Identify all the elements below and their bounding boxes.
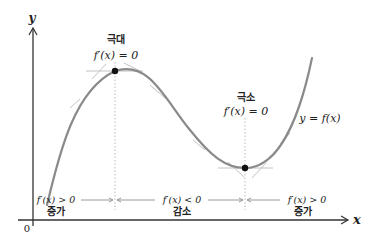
- interval-3-condition: f′(x) > 0: [287, 194, 327, 205]
- y-axis-label: y: [28, 11, 37, 25]
- local-max-condition: f′(x) = 0: [93, 49, 139, 62]
- derivative-diagram: y x 0 극대 f′(x) = 0 극소 f′(x) = 0 y = f(x): [0, 0, 370, 245]
- local-min-condition: f′(x) = 0: [223, 105, 269, 118]
- local-min-point: [242, 165, 248, 171]
- interval-1-condition: f′(x) > 0: [36, 194, 76, 205]
- curve-label: y = f(x): [298, 112, 340, 125]
- interval-3-behavior: 증가: [294, 205, 313, 217]
- interval-1-behavior: 증가: [47, 205, 66, 217]
- interval-2-behavior: 감소: [173, 206, 191, 217]
- x-axis-label: x: [352, 212, 361, 227]
- function-curve: [47, 58, 312, 205]
- local-min-title: 극소: [237, 92, 255, 103]
- local-max-title: 극대: [107, 33, 125, 45]
- origin-label: 0: [24, 223, 30, 234]
- local-max-point: [112, 68, 118, 74]
- tangent-lines: [70, 63, 290, 178]
- interval-2-condition: f′(x) < 0: [162, 194, 202, 205]
